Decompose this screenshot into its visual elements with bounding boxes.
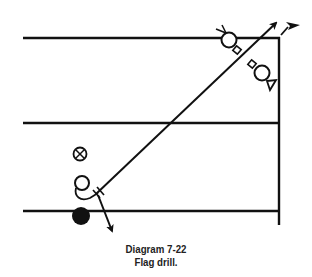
pass-route-arrow: [96, 23, 276, 194]
defender-corner-icon: [248, 60, 276, 90]
quarterback-crossed-circle-icon: [74, 148, 87, 161]
diagram-title: Diagram 7-22: [19, 243, 294, 256]
ball-marker: [72, 207, 90, 225]
drop-arrow: [98, 195, 112, 231]
diagram-subtitle: Flag drill.: [19, 256, 294, 269]
flag-drill-diagram: [0, 0, 312, 240]
flag-marker-icon: [281, 22, 300, 35]
receiver-open-circle-icon: [75, 176, 98, 199]
defender-deep-icon: [216, 25, 241, 54]
